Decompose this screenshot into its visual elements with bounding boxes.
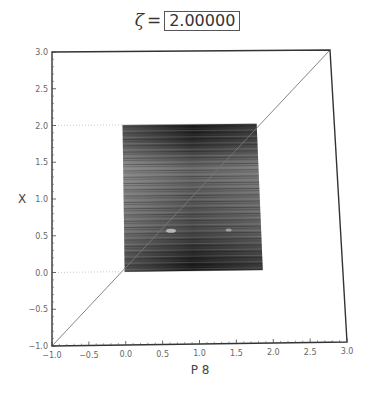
region-layer <box>123 124 263 272</box>
y-tick-label: 0.0 <box>35 269 48 278</box>
x-tick-label: 3.0 <box>341 347 354 356</box>
y-tick-label: 2.0 <box>35 122 48 131</box>
y-axis-label: X <box>18 192 26 206</box>
x-tick-label: 1.0 <box>193 349 206 358</box>
x-tick-label: 2.5 <box>304 348 317 357</box>
reference-dotted-line <box>52 125 123 126</box>
y-tick-label: −0.5 <box>29 305 48 314</box>
reference-dotted-line <box>52 272 125 273</box>
y-tick-label: 3.0 <box>35 48 48 57</box>
x-tick-label: −1.0 <box>42 351 61 360</box>
y-tick-label: 2.5 <box>35 85 48 94</box>
y-tick-label: 0.5 <box>35 232 48 241</box>
orbit-highlight-spot <box>226 229 232 232</box>
x-tick-label: 0.0 <box>119 350 132 359</box>
x-tick-label: 1.5 <box>230 349 243 358</box>
plot: P 8 X −1.0−0.50.00.51.01.52.02.53.0−1.0−… <box>0 0 375 397</box>
y-tick-label: 1.5 <box>35 158 48 167</box>
y-tick-label: 1.0 <box>35 195 48 204</box>
lines-layer <box>52 50 330 346</box>
orbit-highlight-spot <box>166 229 176 233</box>
x-axis-label: P 8 <box>191 363 210 377</box>
identity-line <box>52 50 330 346</box>
y-tick-label: −1.0 <box>29 342 48 351</box>
x-tick-label: −0.5 <box>79 351 98 360</box>
x-tick-label: 0.5 <box>156 350 169 359</box>
x-tick-label: 2.0 <box>267 348 280 357</box>
